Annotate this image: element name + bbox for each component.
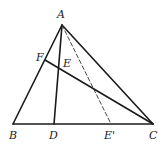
point-label-c: C <box>149 129 158 142</box>
point-label-e: E <box>62 57 71 70</box>
point-label-d: D <box>48 129 58 142</box>
point-label-b: B <box>8 129 17 142</box>
point-label-a: A <box>56 8 65 21</box>
segment-f-c <box>45 60 153 124</box>
point-label-e-prime: E' <box>103 129 115 142</box>
segments <box>13 25 153 124</box>
triangle-diagram: ABCDEE'F <box>0 0 166 147</box>
point-labels: ABCDEE'F <box>8 8 158 142</box>
point-label-f: F <box>35 51 44 64</box>
segment-a-c <box>62 25 153 124</box>
